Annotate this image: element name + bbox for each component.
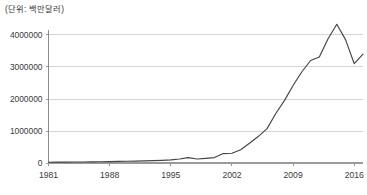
line-chart-plot: 01000000200000030000004000000 1981198819…	[0, 0, 367, 195]
data-series-line	[49, 24, 364, 162]
y-tick-label: 4000000	[10, 30, 43, 40]
gridlines	[49, 35, 364, 131]
y-tick-label: 0	[38, 158, 43, 168]
y-tick-label: 3000000	[10, 62, 43, 72]
axis-tickmarks	[46, 35, 355, 166]
y-tick-label: 1000000	[10, 126, 43, 136]
y-axis-labels: 01000000200000030000004000000	[10, 30, 43, 168]
x-tick-label: 1988	[100, 170, 119, 180]
x-axis-labels: 198119881995200220092016	[39, 170, 364, 180]
chart-container: (단위: 백만달러) 01000000200000030000004000000…	[0, 0, 367, 195]
x-tick-label: 1995	[161, 170, 180, 180]
x-tick-label: 2016	[345, 170, 364, 180]
y-tick-label: 2000000	[10, 94, 43, 104]
x-tick-label: 2009	[284, 170, 303, 180]
x-tick-label: 2002	[222, 170, 241, 180]
x-tick-label: 1981	[39, 170, 58, 180]
